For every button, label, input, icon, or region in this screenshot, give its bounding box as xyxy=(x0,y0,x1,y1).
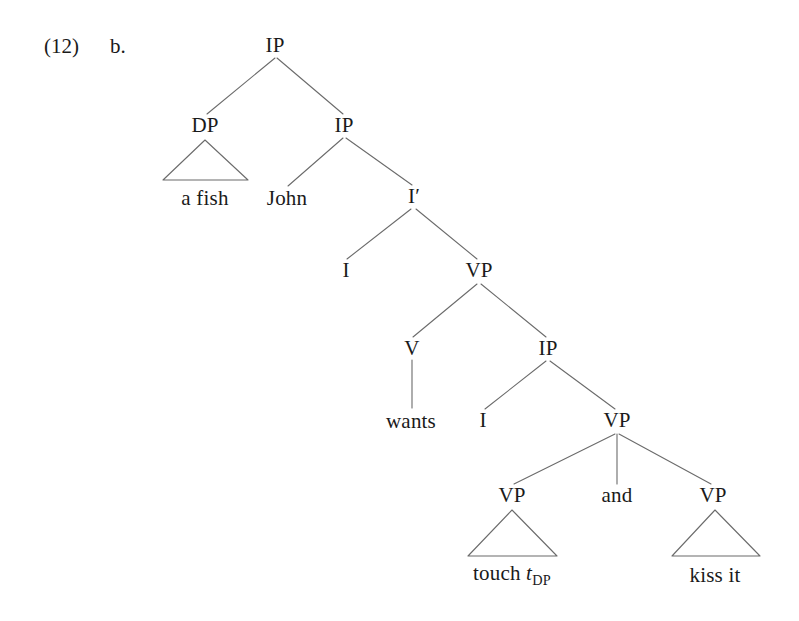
vp-right-triangle xyxy=(672,510,760,556)
ip2-to-i-bar xyxy=(346,138,412,185)
ip3-to-vp2 xyxy=(550,361,615,409)
tree-edges-layer xyxy=(0,0,799,621)
i-bar-to-i1 xyxy=(347,209,411,259)
trace-subscript-dp: DP xyxy=(532,572,551,588)
vp-left-triangle xyxy=(468,510,557,556)
node-vp-2: VP xyxy=(603,410,630,431)
node-i-bar: I′ xyxy=(408,186,420,207)
vp2-to-vp-left xyxy=(514,434,615,484)
dp-triangle xyxy=(163,140,248,180)
terminal-touch-word: touch xyxy=(473,561,526,585)
terminal-john: John xyxy=(267,188,307,209)
vp2-to-vp-right xyxy=(619,434,711,484)
vp1-to-v xyxy=(413,284,477,337)
root-ip-to-ip2 xyxy=(277,58,343,114)
node-vp-1: VP xyxy=(465,260,492,281)
node-ip-3: IP xyxy=(538,338,557,359)
figure-canvas: (12) b. IP DP IP I′ I VP V IP I VP VP an… xyxy=(0,0,799,621)
ip2-to-john xyxy=(288,138,343,186)
terminal-wants: wants xyxy=(386,411,436,432)
node-vp-left: VP xyxy=(498,485,525,506)
node-root-ip: IP xyxy=(265,35,284,56)
node-dp: DP xyxy=(191,115,218,136)
i-bar-to-vp1 xyxy=(416,209,477,259)
terminal-kiss-it: kiss it xyxy=(690,565,741,586)
terminal-touch-trace: touch tDP xyxy=(473,563,551,587)
ip3-to-i2 xyxy=(485,361,546,409)
node-v: V xyxy=(404,338,419,359)
node-conjunction-and: and xyxy=(602,485,633,506)
node-i-1: I xyxy=(342,260,349,281)
terminal-a-fish: a fish xyxy=(181,188,228,209)
node-i-2: I xyxy=(479,410,486,431)
node-ip-2: IP xyxy=(334,115,353,136)
node-vp-right: VP xyxy=(699,485,726,506)
vp1-to-ip3 xyxy=(481,284,546,337)
root-ip-to-dp xyxy=(207,58,275,114)
